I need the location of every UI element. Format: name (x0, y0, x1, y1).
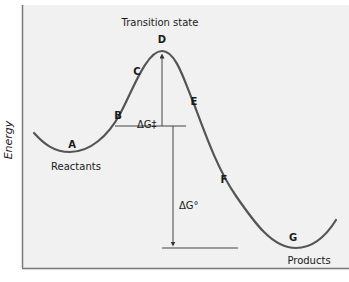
point-label-e: E (191, 96, 198, 107)
point-label-f: F (221, 174, 228, 185)
plot-background (22, 5, 349, 268)
activation-energy-label: ΔG‡ (137, 119, 157, 130)
products-label: Products (287, 255, 330, 266)
point-label-a: A (68, 139, 76, 150)
standard-free-energy-label: ΔG° (179, 200, 199, 211)
point-label-b: B (114, 110, 122, 121)
point-label-d: D (158, 34, 166, 45)
point-label-g: G (289, 232, 297, 243)
reactants-label: Reactants (51, 161, 101, 172)
transition-state-label: Transition state (121, 17, 199, 28)
y-axis-label: Energy (2, 120, 15, 159)
point-label-c: C (133, 66, 140, 77)
energy-diagram: Transition state D C B A E F G Reactants… (0, 0, 349, 282)
